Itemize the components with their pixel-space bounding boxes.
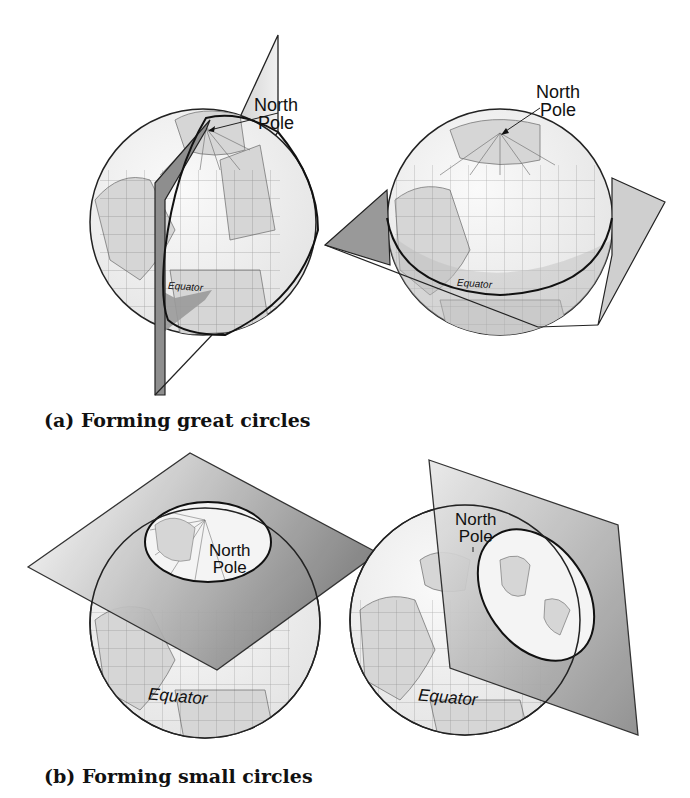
label-line: North	[254, 96, 298, 114]
north-pole-label-b2: North Pole	[455, 511, 497, 545]
label-line: Pole	[254, 114, 298, 132]
globe-a2	[325, 108, 665, 340]
equator-label-a1: Equator	[168, 280, 204, 293]
north-pole-label-b1: North Pole	[209, 542, 251, 576]
north-pole-label-a1: North Pole	[254, 96, 298, 132]
label-line: North	[536, 83, 580, 101]
plane-a2-left	[325, 190, 390, 265]
label-line: North	[209, 542, 251, 559]
globe-b2	[350, 460, 638, 750]
label-line: North	[455, 511, 497, 528]
north-pole-label-a2: North Pole	[536, 83, 580, 119]
label-line: Pole	[455, 528, 497, 545]
caption-a: (a) Forming great circles	[44, 409, 311, 431]
label-line: Pole	[536, 101, 580, 119]
label-line: Pole	[209, 559, 251, 576]
caption-b: (b) Forming small circles	[44, 765, 313, 787]
globe-a1	[90, 35, 318, 395]
diagram-canvas	[0, 0, 690, 798]
equator-label-a2: Equator	[457, 277, 493, 290]
